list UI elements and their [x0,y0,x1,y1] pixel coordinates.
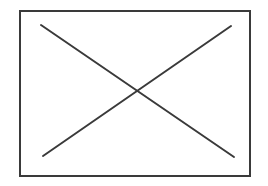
crossed-rectangle-figure [0,0,268,186]
figure-canvas [0,0,268,186]
